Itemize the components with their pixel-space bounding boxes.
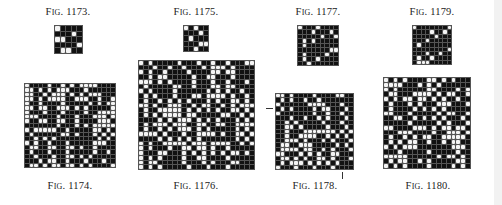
weave-cell <box>89 137 93 140</box>
weave-cell <box>178 165 182 169</box>
weave-cell <box>178 113 182 117</box>
weave-cell <box>298 62 302 65</box>
weave-cell <box>221 156 225 160</box>
caption-fig-1180: FIG. 1180. <box>398 180 458 191</box>
weave-cell <box>331 94 335 97</box>
weave-cell <box>178 123 182 127</box>
weave-cell <box>93 133 97 136</box>
weave-cell <box>326 116 330 119</box>
weave-cell <box>144 127 148 131</box>
weave-cell <box>57 137 61 140</box>
weave-cell <box>98 84 102 87</box>
weave-cell <box>192 66 196 70</box>
weave-cell <box>226 137 230 141</box>
weave-cell <box>34 124 38 127</box>
weave-cell <box>197 94 201 98</box>
weave-cell <box>173 165 177 169</box>
weave-cell <box>25 102 29 105</box>
weave-cell <box>325 62 329 65</box>
weave-cell <box>30 119 34 122</box>
weave-cell <box>207 161 211 165</box>
weave-cell <box>57 119 61 122</box>
weave-cell <box>326 166 330 169</box>
weave-cell <box>61 43 66 48</box>
weave-cell <box>245 70 249 74</box>
weave-cell <box>61 155 65 158</box>
weave-cell <box>308 134 312 137</box>
weave-cell <box>461 150 465 154</box>
weave-cell <box>442 155 446 159</box>
weave-cell <box>345 94 349 97</box>
weave-cell <box>447 78 451 82</box>
weave-cell <box>182 156 186 160</box>
weave-cell <box>250 165 254 169</box>
weave-cell <box>216 161 220 165</box>
weave-cell <box>422 56 425 59</box>
weave-cell <box>447 88 451 92</box>
weave-cell <box>312 44 316 47</box>
weave-cell <box>443 43 446 46</box>
weave-cell <box>184 31 188 35</box>
weave-cell <box>57 93 61 96</box>
weave-cell <box>184 26 188 30</box>
weave-cell <box>25 150 29 153</box>
weave-cell <box>182 137 186 141</box>
weave-cell <box>111 106 115 109</box>
weave-cell <box>89 124 93 127</box>
weave-cell <box>236 94 240 98</box>
weave-cell <box>70 111 74 114</box>
weave-cell <box>345 157 349 160</box>
weave-cell <box>432 97 436 101</box>
weave-cell <box>394 121 398 125</box>
weave-cell <box>221 142 225 146</box>
weave-cell <box>331 139 335 142</box>
weave-cell <box>336 103 340 106</box>
end-marker-bottom <box>342 172 343 179</box>
weave-cell <box>144 108 148 112</box>
weave-cell <box>98 159 102 162</box>
weave-cell <box>192 123 196 127</box>
weave-cell <box>207 113 211 117</box>
weave-cell <box>25 93 29 96</box>
weave-cell <box>34 106 38 109</box>
weave-cell <box>312 26 316 29</box>
weave-cell <box>432 126 436 130</box>
weave-cell <box>216 146 220 150</box>
weave-cell <box>163 113 167 117</box>
weave-cell <box>226 151 230 155</box>
weave-cell <box>173 61 177 65</box>
weave-cell <box>384 88 388 92</box>
weave-cell <box>89 150 93 153</box>
weave-cell <box>139 89 143 93</box>
weave-cell <box>173 80 177 84</box>
weave-cell <box>158 70 162 74</box>
weave-cell <box>158 137 162 141</box>
weave-cell <box>61 106 65 109</box>
weave-cell <box>308 157 312 160</box>
weave-cell <box>52 102 56 105</box>
weave-cell <box>182 113 186 117</box>
weave-cell <box>427 116 431 120</box>
weave-cell <box>466 155 470 159</box>
weave-cell <box>299 134 303 137</box>
weave-cell <box>197 156 201 160</box>
weave-cell <box>187 146 191 150</box>
weave-cell <box>281 112 285 115</box>
weave-cell <box>43 164 47 167</box>
weave-cell <box>84 137 88 140</box>
weave-cell <box>452 140 456 144</box>
weave-cell <box>389 102 393 106</box>
weave-cell <box>204 26 208 30</box>
weave-cell <box>422 30 425 33</box>
weave-cell <box>25 88 29 91</box>
weave-cell <box>384 164 388 168</box>
weave-cell <box>403 164 407 168</box>
weave-cell <box>93 115 97 118</box>
weave-cell <box>207 99 211 103</box>
weave-cell <box>107 97 111 100</box>
weave-cell <box>398 92 402 96</box>
weave-cell <box>149 61 153 65</box>
weave-cell <box>413 116 417 120</box>
weave-cell <box>326 134 330 137</box>
weave-cell <box>107 115 111 118</box>
